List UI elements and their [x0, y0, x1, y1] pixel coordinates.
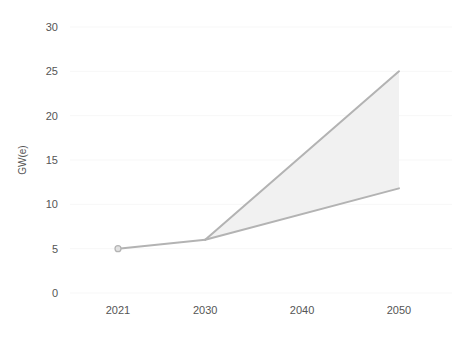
y-tick-label-20: 20 — [46, 110, 58, 122]
x-tick-label-2040: 2040 — [290, 304, 314, 316]
y-tick-label-5: 5 — [52, 243, 58, 255]
x-tick-label-2030: 2030 — [193, 304, 217, 316]
y-tick-label-0: 0 — [52, 287, 58, 299]
line-chart-with-uncertainty-band: 051015202530 2021203020402050 GW(e) — [0, 0, 462, 339]
data-point-marker — [115, 246, 121, 252]
y-tick-label-25: 25 — [46, 65, 58, 77]
x-tick-label-2021: 2021 — [106, 304, 130, 316]
y-tick-label-30: 30 — [46, 21, 58, 33]
y-tick-label-15: 15 — [46, 154, 58, 166]
y-tick-label-10: 10 — [46, 198, 58, 210]
y-axis-title: GW(e) — [17, 145, 28, 174]
data-point-markers — [115, 246, 121, 252]
chart-container: 051015202530 2021203020402050 GW(e) — [0, 0, 462, 339]
x-tick-label-2050: 2050 — [387, 304, 411, 316]
